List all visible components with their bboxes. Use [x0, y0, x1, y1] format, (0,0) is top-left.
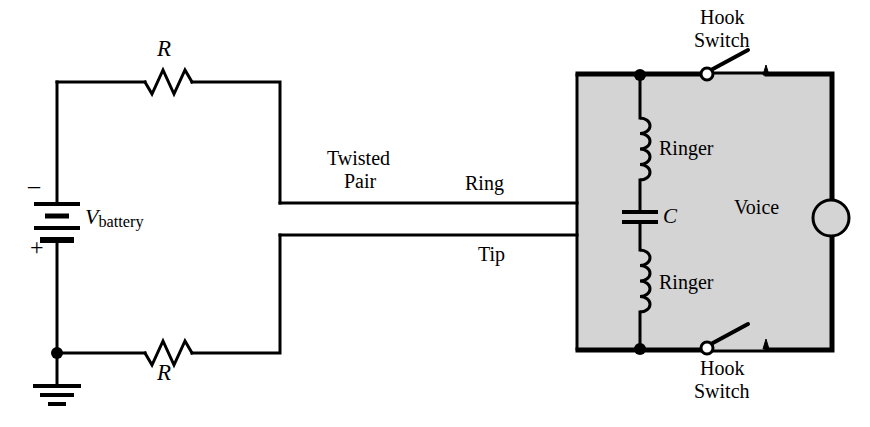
junction-dot-top — [634, 69, 646, 81]
battery-plus-label: + — [30, 234, 44, 261]
left-loop-wires — [57, 82, 577, 386]
tip-label: Tip — [478, 243, 505, 265]
resistor-top-label: R — [157, 36, 171, 62]
voice-label: Voice — [734, 196, 779, 218]
hook-switch-top-label-line2: Switch — [694, 29, 750, 51]
battery-label-symbol: V — [85, 204, 98, 229]
capacitor-label: C — [663, 205, 677, 229]
hook-switch-top-label-line1: Hook — [700, 6, 744, 28]
telephone-set-shaded-box — [577, 73, 833, 351]
ringer-lower-label: Ringer — [659, 271, 713, 293]
resistor-bottom-label: R — [157, 360, 171, 386]
ringer-upper-label: Ringer — [659, 137, 713, 159]
ring-label: Ring — [465, 172, 504, 194]
hook-switch-bottom-label-line1: Hook — [700, 357, 744, 379]
twisted-pair-label-line2: Pair — [344, 170, 376, 192]
junction-dot-ground — [51, 347, 63, 359]
battery-label-subscript: battery — [98, 212, 143, 231]
hook-switch-bottom-label-line2: Switch — [694, 380, 750, 402]
twisted-pair-label-line1: Twisted — [327, 147, 390, 169]
resistor-top-symbol — [145, 70, 192, 94]
voice-element-symbol — [813, 200, 849, 236]
junction-dot-bottom — [634, 343, 646, 355]
battery-label: Vbattery — [85, 205, 144, 230]
circuit-diagram-canvas: R R – + Vbattery Twisted Pair Ring Tip H… — [0, 0, 870, 427]
battery-minus-label: – — [28, 172, 40, 199]
ground-symbol — [33, 386, 81, 404]
